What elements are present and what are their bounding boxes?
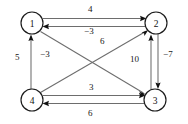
edge-weight-1-to-3: −3	[40, 50, 50, 59]
edge-weight-4-to-1: 5	[15, 53, 20, 62]
edge-weight-4-to-2: 6	[100, 37, 105, 46]
node-1-label: 1	[30, 19, 35, 29]
edge-4-to-3	[43, 93, 146, 98]
node-2-label: 2	[154, 19, 159, 29]
edge-weight-2-to-3: −7	[163, 50, 173, 59]
node-4-label: 4	[30, 96, 35, 106]
edge-3-to-4	[43, 101, 145, 106]
node-3-label: 3	[153, 96, 158, 106]
edge-1-to-2	[43, 16, 147, 21]
node-3[interactable]: 3	[144, 89, 166, 111]
node-1[interactable]: 1	[21, 12, 43, 34]
edge-weight-1-to-2: 4	[88, 5, 93, 14]
edge-weight-4-to-3: 3	[89, 83, 94, 92]
edge-3-to-2	[148, 35, 153, 90]
node-4[interactable]: 4	[21, 89, 43, 111]
edge-4-to-1	[28, 35, 33, 90]
edge-2-to-3	[155, 35, 160, 90]
edge-weight-3-to-4: 6	[88, 109, 93, 118]
edge-weight-2-to-1: −3	[84, 27, 94, 36]
node-2[interactable]: 2	[145, 12, 167, 34]
graph-svg: 1 2 3 4	[0, 0, 188, 124]
graph-diagram-canvas: 1 2 3 4 4 −3 5 −3 6 10 −7 3 6	[0, 0, 188, 124]
edge-weight-3-to-2: 10	[130, 55, 139, 64]
